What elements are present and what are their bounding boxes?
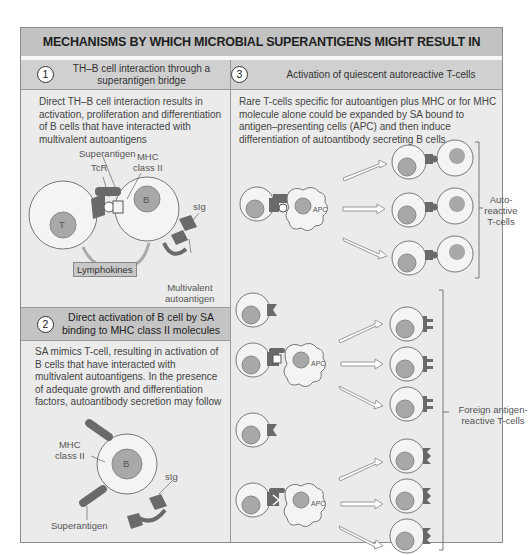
panel-1-header: 1 TH–B cell interaction through a supera…: [21, 60, 230, 90]
panel-2-heading-line1: Direct activation of B cell by SA: [55, 311, 227, 324]
label-mhc-1-line1: MHC: [133, 151, 163, 162]
panel-1-heading-line1: TH–B cell interaction through a: [59, 63, 224, 75]
label-mhc-2-line1: MHC: [55, 439, 85, 450]
label-multivalent-line2: autoantigen: [165, 293, 215, 304]
label-multivalent-line1: Multivalent: [165, 282, 215, 293]
apc-label-2: APC: [311, 360, 325, 367]
label-foreign-line1: Foreign antigen-: [453, 404, 532, 415]
label-mhc-2: MHC class II: [55, 439, 85, 461]
label-autoreactive-line3: T-cells: [481, 216, 521, 227]
panel-2-header: 2 Direct activation of B cell by SA bind…: [21, 308, 230, 341]
apc-label-3: APC: [311, 500, 325, 507]
panel-number-2: 2: [37, 316, 54, 333]
label-multivalent-autoantigen: Multivalent autoantigen: [165, 282, 215, 304]
label-sig-2: sIg: [165, 471, 178, 482]
panel-3-diagram: APC APC APC: [231, 112, 502, 542]
panel-number-1: 1: [37, 66, 54, 83]
panel-2-heading-line2: binding to MHC class II molecules: [55, 324, 227, 337]
label-tcr: TcR: [91, 162, 107, 173]
label-mhc-2-line2: class II: [55, 450, 85, 461]
label-b-cell-1: B: [143, 194, 149, 205]
label-sig-1: sIg: [193, 201, 206, 212]
label-autoreactive-line2: reactive: [481, 205, 521, 216]
label-foreign-antigen-reactive-t-cells: Foreign antigen- reactive T-cells: [453, 404, 532, 426]
panel-1-diagram: [21, 143, 230, 303]
label-mhc-1-line2: class II: [133, 162, 163, 173]
label-foreign-line2: reactive T-cells: [453, 415, 532, 426]
figure-title: MECHANISMS BY WHICH MICROBIAL SUPERANTIG…: [21, 28, 502, 56]
label-autoreactive-line1: Auto-: [481, 194, 521, 205]
label-t-cell-1: T: [59, 219, 65, 230]
arrows-foreign: [339, 320, 383, 549]
apc-label-1: APC: [313, 206, 327, 213]
label-autoreactive-t-cells: Auto- reactive T-cells: [481, 194, 521, 227]
label-lymphokines: Lymphokines: [73, 262, 137, 277]
panel-2-description: SA mimics T-cell, resulting in activatio…: [35, 346, 225, 409]
panel-1-heading: TH–B cell interaction through a superant…: [59, 63, 224, 87]
arrows-autoreactive: [343, 160, 387, 259]
label-superantigen-1: Superantigen: [79, 148, 136, 159]
panel-1-heading-line2: superantigen bridge: [59, 75, 224, 87]
label-b-cell-2: B: [123, 458, 129, 469]
panel-1-description: Direct TH–B cell interaction results in …: [39, 96, 224, 146]
label-superantigen-2: Superantigen: [51, 520, 108, 531]
label-mhc-1: MHC class II: [133, 151, 163, 173]
panel-3-heading: Activation of quiescent autoreactive T-c…: [261, 69, 501, 80]
figure-frame: MECHANISMS BY WHICH MICROBIAL SUPERANTIG…: [20, 27, 503, 543]
panel-2-heading: Direct activation of B cell by SA bindin…: [55, 311, 227, 337]
panel-3-header: 3 Activation of quiescent autoreactive T…: [231, 60, 502, 90]
panel-number-3: 3: [231, 66, 248, 83]
